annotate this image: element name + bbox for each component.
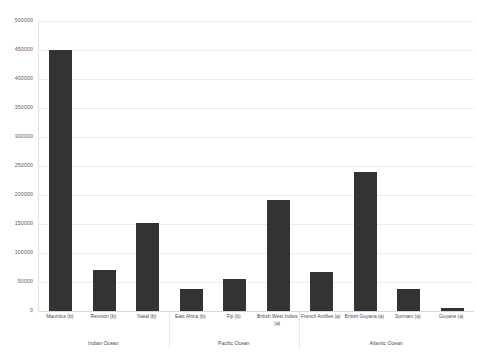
x-axis-tick-label: Surinam (a) [386,314,430,336]
bar-slot [83,21,127,311]
group-label: Indian Ocean [88,341,118,346]
x-axis-tick-label: East Africa (b) [169,314,213,336]
bar-slot [39,21,83,311]
y-axis-tick-label: 0 [30,308,33,313]
bar[interactable] [136,223,159,311]
y-axis-tick-label: 250000 [15,163,33,168]
x-axis-tick-label: Guyane (a) [430,314,474,336]
bar-slot [257,21,301,311]
bar-chart: 0500001000001500002000002500003000003500… [0,0,477,359]
bar[interactable] [267,200,290,311]
x-axis-tick-label: Fiji (b) [212,314,256,336]
bar-slot [344,21,388,311]
group-separator [169,311,170,349]
y-axis: 0500001000001500002000002500003000003500… [0,14,36,318]
group-labels: Indian OceanPacific OceanAtlantic Ocean [38,341,473,353]
bar[interactable] [93,270,116,311]
bar-slot [387,21,431,311]
y-axis-tick-label: 450000 [15,47,33,52]
y-axis-tick-label: 150000 [15,221,33,226]
plot-area [38,21,474,311]
y-axis-tick-label: 200000 [15,192,33,197]
group-label: Pacific Ocean [218,341,249,346]
bar-slot [170,21,214,311]
bar-slot [126,21,170,311]
bar[interactable] [354,172,377,311]
y-axis-tick-label: 500000 [15,18,33,23]
y-axis-tick-label: 400000 [15,76,33,81]
bars-container [39,21,474,311]
x-axis-tick-label: Reunion (b) [82,314,126,336]
bar-slot [213,21,257,311]
bar-slot [300,21,344,311]
y-axis-tick-label: 350000 [15,105,33,110]
x-axis-tick-label: British West Indies (a) [256,314,300,336]
x-axis-tick-label: British Guyana (a) [343,314,387,336]
y-axis-tick-label: 300000 [15,134,33,139]
x-axis-tick-label: French Antilles (a) [299,314,343,336]
bar-slot [431,21,475,311]
y-axis-tick-label: 100000 [15,250,33,255]
bar[interactable] [441,308,464,311]
bar[interactable] [310,272,333,311]
y-axis-tick-label: 50000 [18,279,33,284]
bar[interactable] [397,289,420,311]
bar[interactable] [223,279,246,311]
x-axis-labels: Mauritius (b)Reunion (b)Natal (b)East Af… [38,314,473,336]
x-axis-tick-label: Mauritius (b) [38,314,82,336]
bar[interactable] [180,289,203,311]
x-axis-tick-label: Natal (b) [125,314,169,336]
bar[interactable] [49,50,72,311]
gridline [39,311,474,312]
group-separator [299,311,300,349]
group-label: Atlantic Ocean [369,341,402,346]
